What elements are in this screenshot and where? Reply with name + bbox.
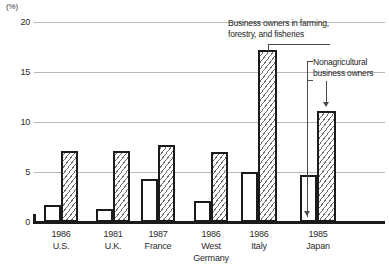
category-year-italy: 1986 [231, 228, 287, 240]
category-label-japan: 1985 Japan [290, 228, 346, 252]
farming-annotation-leader-horizontal [268, 44, 330, 45]
category-label-italy: 1986 Italy [231, 228, 287, 252]
bar-nonagricultural-france [158, 145, 175, 222]
nonagricultural-arrow-shaft-upper [326, 81, 327, 103]
bar-nonagricultural-italy [258, 50, 277, 222]
bar-nonagricultural-japan [317, 111, 336, 222]
bar-farming-us [44, 205, 61, 222]
nonagricultural-annotation-leader-bracket [307, 61, 308, 81]
nonagricultural-arrow-head-upper [323, 102, 329, 107]
bar-nonagricultural-west-germany [211, 152, 228, 222]
nonagricultural-arrow-head-lower [304, 211, 310, 216]
bar-farming-uk [96, 209, 113, 222]
nonagricultural-annotation-line-2: business owners [313, 68, 389, 79]
bar-nonagricultural-uk [113, 151, 130, 222]
category-name-japan: Japan [290, 240, 346, 252]
category-label-us: 1986 U.S. [33, 228, 89, 252]
y-tick-label-0: 0 [0, 217, 30, 227]
y-tick-label-5: 5 [0, 167, 30, 177]
nonagricultural-annotation-leader-tick-top [307, 61, 313, 62]
category-year-japan: 1985 [290, 228, 346, 240]
y-tick-label-15: 15 [0, 67, 30, 77]
bar-farming-west-germany [194, 201, 211, 222]
farming-annotation-line-2: forestry, and fisheries [228, 29, 380, 40]
y-tick-label-20: 20 [0, 17, 30, 27]
category-year-us: 1986 [33, 228, 89, 240]
bar-chart: (%) 20 15 10 5 0 1986 U.S. 1981 U.K. 198… [0, 0, 389, 273]
y-axis-unit-label: (%) [6, 2, 18, 11]
farming-annotation-line-1: Business owners in farming, [228, 18, 380, 29]
nonagricultural-annotation-line-1: Nonagricultural [313, 57, 389, 68]
y-axis-stub [33, 214, 36, 222]
farming-annotation-leader-vertical [268, 44, 269, 51]
category-name-us: U.S. [33, 240, 89, 252]
farming-annotation-text: Business owners in farming, forestry, an… [228, 18, 380, 40]
nonagricultural-annotation-text: Nonagricultural business owners [313, 57, 389, 79]
bar-nonagricultural-us [61, 151, 78, 222]
category-name-italy: Italy [231, 240, 287, 252]
bar-farming-italy [241, 172, 258, 222]
nonagricultural-arrow-shaft-lower [307, 81, 308, 217]
category-label-france: 1987 France [130, 228, 186, 252]
category-name-france: France [130, 240, 186, 252]
bar-farming-france [141, 179, 158, 222]
y-tick-label-10: 10 [0, 117, 30, 127]
category-year-france: 1987 [130, 228, 186, 240]
